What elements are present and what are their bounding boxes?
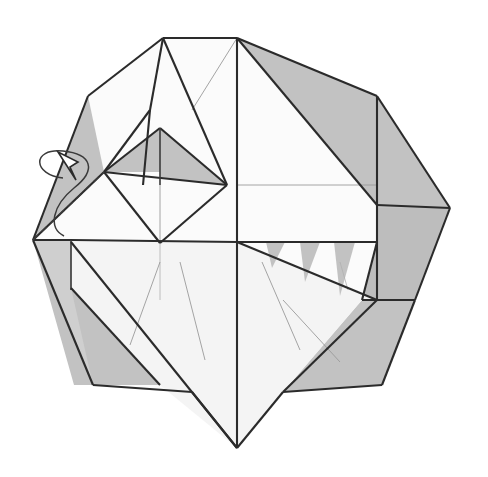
origami-figure [0, 0, 488, 477]
origami-diagram-root [0, 0, 488, 477]
